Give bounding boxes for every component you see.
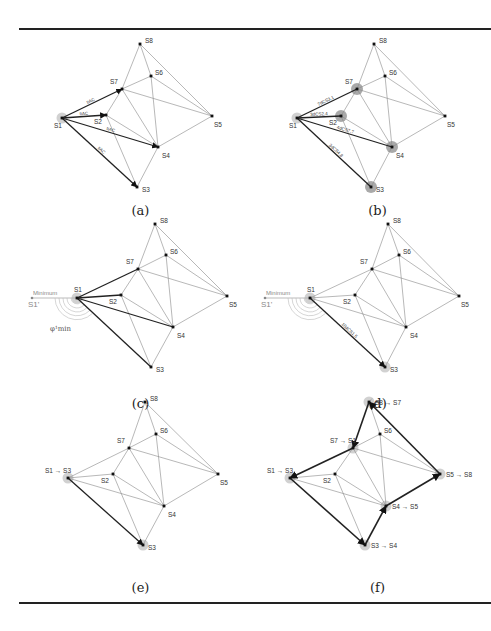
edge-s6-s5: [385, 76, 445, 116]
node-s6: [150, 75, 153, 78]
minimum-label: Minimum: [266, 290, 290, 296]
edge-s6-s5: [156, 434, 218, 474]
node-label-s2: S2: [343, 298, 351, 305]
node-s2: [340, 115, 343, 118]
node-label-s7: S7: [360, 258, 368, 265]
node-s7: [128, 447, 131, 450]
node-label-s4: S4: [162, 152, 170, 159]
edge-s6-s5: [151, 76, 212, 116]
node-label-s8: S8: [150, 395, 158, 402]
node-s3: [142, 544, 145, 547]
node-label-s1: S1: [54, 122, 62, 129]
edge-s6-s4: [151, 76, 158, 147]
edge-s4-s3: [137, 147, 158, 187]
node-s3: [384, 366, 387, 369]
caption-b: (b): [255, 203, 491, 218]
edge-s2-s3: [335, 474, 365, 545]
node-label-s2: S2: [329, 119, 337, 126]
node-label-s6: S6: [170, 248, 178, 255]
ghost-node-label: S1': [28, 300, 40, 309]
node-s1: [309, 297, 312, 300]
edge-s4-s3: [143, 506, 164, 545]
edge-s1-s4: [290, 478, 386, 506]
node-label-s3: S3: [390, 366, 398, 373]
node-label-s4: S4: [410, 332, 418, 339]
node-s3: [136, 186, 139, 189]
node-label-s3: S3: [142, 186, 150, 193]
bold-edge-s4-s5: [386, 474, 440, 506]
node-label-s2: S2: [94, 118, 102, 125]
node-s6: [398, 254, 401, 257]
edge-s8-s6: [374, 44, 385, 76]
edge-s2-s4: [335, 474, 386, 506]
caption-a: (a): [18, 203, 263, 218]
edge-s2-s4: [121, 295, 173, 327]
edge-s6-s5: [399, 255, 459, 296]
node-label-s1: S1 → S3: [267, 467, 293, 474]
node-label-s1: S1: [74, 286, 82, 293]
node-label-s8: S8 → S7: [375, 399, 401, 406]
node-label-s8: S8: [393, 217, 401, 224]
edge-s8-s6: [388, 224, 399, 255]
node-label-s7: S7: [110, 78, 118, 85]
node-label-s7: S7: [117, 437, 125, 444]
node-s5: [217, 473, 220, 476]
caption-e: (e): [18, 580, 263, 595]
caption-f: (f): [255, 580, 491, 595]
node-label-s3: S3: [156, 366, 164, 373]
node-s1: [289, 477, 292, 480]
node-label-s8: S8: [145, 37, 153, 44]
edge-label: 3dCS4,8: [328, 143, 345, 159]
node-s7: [352, 447, 355, 450]
node-s4: [172, 326, 175, 329]
edge-s2-s3: [355, 295, 385, 367]
edge-s4-s5: [164, 474, 218, 506]
node-label-s5: S5 → S8: [446, 471, 472, 478]
edge-s4-s5: [392, 116, 445, 147]
node-s2: [105, 114, 108, 117]
node-label-s7: S7 → S1: [330, 437, 356, 444]
node-s1: [76, 297, 79, 300]
node-label-s5: S5: [220, 479, 228, 486]
node-label-s5: S5: [214, 121, 222, 128]
bold-edge-s1-s3: [290, 478, 365, 545]
bold-edge-s1-s4: [77, 298, 173, 327]
node-s7: [137, 268, 140, 271]
node-s3: [364, 544, 367, 547]
node-label-s1: S1: [289, 122, 297, 129]
angle-label: φ¹min: [50, 325, 72, 333]
ghost-node: [31, 297, 34, 300]
caption-c: (c): [18, 396, 263, 411]
edge-s4-s3: [371, 147, 392, 187]
node-label-s5: S5: [461, 301, 469, 308]
node-label-s2: S2: [101, 477, 109, 484]
edge-s2-s4: [113, 474, 164, 506]
edge-s4-s3: [385, 327, 406, 367]
node-s5: [444, 115, 447, 118]
edge-s4-s5: [158, 116, 212, 147]
bold-edge-s1-s3: [68, 478, 143, 545]
edge-s6-s4: [380, 434, 386, 506]
node-label-s6: S6: [403, 248, 411, 255]
bold-edge-s1-s3: [77, 298, 151, 367]
node-label-s8: S8: [160, 217, 168, 224]
node-s8: [373, 43, 376, 46]
edge-label: tiAC: [79, 111, 89, 117]
node-label-s3: S3: [376, 186, 384, 193]
node-s5: [226, 295, 229, 298]
edge-s6-s4: [166, 255, 173, 327]
node-s7: [356, 88, 359, 91]
bold-edge-s1-s4: [297, 118, 392, 147]
node-s4: [385, 505, 388, 508]
node-label-s1: S1: [307, 286, 315, 293]
bold-edge-s1-s3: [297, 118, 371, 187]
node-label-s4: S4: [396, 152, 404, 159]
node-s1: [61, 117, 64, 120]
node-s2: [120, 294, 123, 297]
node-label-s6: S6: [384, 427, 392, 434]
node-s4: [163, 505, 166, 508]
edge-s4-s5: [173, 296, 227, 327]
edge-s2-s4: [355, 295, 406, 327]
node-s8: [144, 401, 147, 404]
node-label-s4: S4: [168, 511, 176, 518]
